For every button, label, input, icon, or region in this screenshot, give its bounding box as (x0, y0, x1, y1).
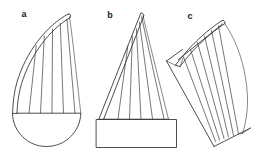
panel-b-rib (142, 17, 164, 119)
sail-shapes-diagram: a b (0, 0, 261, 158)
panel-c-spar-foot (176, 65, 181, 66)
panel-a-rib (41, 36, 45, 113)
panel-c-leech (224, 23, 248, 134)
panel-c-rib (191, 50, 220, 141)
panel-b-base-box (97, 120, 177, 148)
panel-c-edge-right-join (239, 134, 243, 135)
figure-container: a b (0, 0, 261, 158)
panel-c-shape (167, 20, 251, 146)
panel-a-rib (52, 29, 53, 113)
panel-a-spar-outer (13, 14, 69, 114)
panel-b-rib (136, 29, 141, 120)
panel-c-rib (184, 57, 216, 142)
panel-a-rib (29, 46, 36, 114)
panel-a-rib (67, 20, 75, 114)
panel-b-spar-tip (141, 13, 144, 16)
panel-c-spar-tip (222, 20, 225, 24)
panel-a-shape (13, 14, 81, 147)
panel-b-label: b (107, 10, 113, 20)
panel-b-spar-inner (104, 16, 144, 119)
panel-a-hull-arc (13, 114, 81, 147)
panel-b-leech (143, 16, 169, 120)
panel-c-label: c (187, 11, 192, 21)
panel-b-shape (97, 13, 177, 148)
panel-b-rib (118, 46, 128, 119)
panel-a-label: a (21, 9, 27, 19)
panel-a-rib (60, 24, 63, 114)
